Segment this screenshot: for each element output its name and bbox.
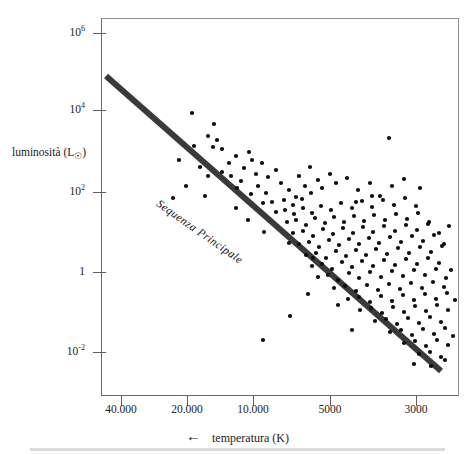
scatter-point (378, 194, 382, 198)
scatter-point (351, 231, 355, 235)
scatter-point (420, 286, 424, 290)
scatter-point (415, 228, 419, 232)
scatter-point (361, 225, 365, 229)
scatter-point (376, 288, 380, 292)
scatter-point (320, 262, 324, 266)
x-axis-title: ←temperatura (K) (0, 428, 475, 446)
scatter-point (264, 191, 268, 195)
scatter-point (410, 234, 414, 238)
scatter-point (256, 184, 260, 188)
scatter-point (424, 309, 428, 313)
scatter-point (344, 254, 348, 258)
scatter-point (440, 244, 444, 248)
scatter-point (409, 281, 413, 285)
scatter-point (331, 232, 335, 236)
scatter-point (392, 203, 396, 207)
scatter-point (192, 144, 196, 148)
scatter-point (332, 215, 336, 219)
scatter-point (410, 333, 414, 337)
scatter-point (390, 184, 394, 188)
scatter-point (435, 303, 439, 307)
scatter-point (242, 166, 246, 170)
scatter-point (368, 181, 372, 185)
scatter-point (402, 310, 406, 314)
scatter-point (323, 221, 327, 225)
y-axis-tick-label: 1 (25, 266, 85, 278)
scatter-point (434, 267, 438, 271)
x-axis-tick-label: 3000 (376, 403, 456, 415)
scatter-point (341, 226, 345, 230)
scatter-point (393, 263, 397, 267)
scatter-point (382, 258, 386, 262)
scatter-point (310, 264, 314, 268)
scatter-point (358, 308, 362, 312)
scatter-point (424, 344, 428, 348)
scatter-point (308, 165, 312, 169)
scatter-point (270, 200, 274, 204)
scatter-point (343, 284, 347, 288)
scatter-point (326, 273, 330, 277)
scatter-point (350, 328, 354, 332)
scatter-point (287, 241, 291, 245)
scatter-point (324, 256, 328, 260)
scatter-point (404, 257, 408, 261)
scatter-point (421, 327, 425, 331)
scatter-point (360, 259, 364, 263)
scatter-point (203, 194, 207, 198)
y-axis-tick-mark (93, 33, 106, 34)
scatter-point (266, 175, 270, 179)
scatter-point (434, 297, 438, 301)
scatter-point (313, 216, 317, 220)
scatter-point (345, 176, 349, 180)
scatter-point (371, 264, 375, 268)
scatter-point (239, 179, 243, 183)
scatter-point (406, 316, 410, 320)
scatter-point (387, 282, 391, 286)
scatter-point (352, 214, 356, 218)
scatter-point (357, 276, 361, 280)
scatter-point (283, 208, 287, 212)
scatter-point (227, 161, 231, 165)
scatter-point (437, 231, 441, 235)
scatter-point (297, 174, 301, 178)
scatter-point (453, 298, 457, 302)
scatter-point (380, 311, 384, 315)
scatter-point (388, 330, 392, 334)
scatter-point (254, 172, 258, 176)
scatter-point (356, 188, 360, 192)
scatter-point (423, 273, 427, 277)
scatter-point (336, 303, 340, 307)
x-axis-tick-label: 5000 (290, 403, 370, 415)
scatter-point (377, 241, 381, 245)
scatter-point (423, 292, 427, 296)
scatter-point (426, 222, 430, 226)
scatter-point (206, 174, 210, 178)
scatter-point (405, 217, 409, 221)
scatter-point (412, 298, 416, 302)
scatter-point (314, 251, 318, 255)
scatter-point (451, 334, 455, 338)
scatter-point (350, 265, 354, 269)
scatter-point (373, 319, 377, 323)
scatter-point (372, 213, 376, 217)
scatter-point (330, 267, 334, 271)
main-sequence-line (106, 76, 441, 371)
scatter-point (381, 198, 385, 202)
scatter-point (390, 269, 394, 273)
scatter-point (291, 203, 295, 207)
scatter-point (379, 275, 383, 279)
scatter-point (360, 199, 364, 203)
scatter-point (432, 233, 436, 237)
scatter-point (220, 147, 224, 151)
scatter-point (412, 268, 416, 272)
scatter-point (249, 192, 253, 196)
scatter-point (307, 240, 311, 244)
scatter-point (211, 145, 215, 149)
scatter-point (177, 158, 181, 162)
scatter-point (428, 315, 432, 319)
scatter-point (262, 230, 266, 234)
scatter-point (337, 243, 341, 247)
scatter-point (247, 150, 251, 154)
y-axis-tick-mark (93, 272, 106, 273)
scatter-point (391, 305, 395, 309)
